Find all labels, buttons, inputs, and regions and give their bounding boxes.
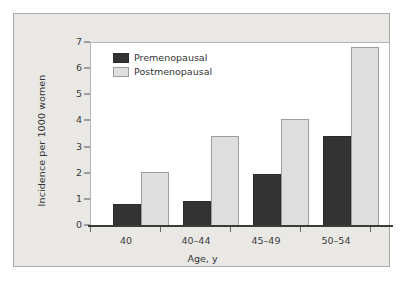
x-tick-label-40-44: 40–44 [182,235,211,246]
legend-item-postmenopausal: Postmenopausal [113,65,233,78]
bar-postmenopausal-50-54 [351,47,379,226]
plot-inner: Premenopausal Postmenopausal [91,43,389,226]
bar-postmenopausal-45-49 [281,119,309,226]
y-tick-label: 4 [66,115,82,125]
y-tick-label: 0 [66,220,82,230]
bar-premenopausal-40-44 [183,201,211,226]
chart-card: Incidence per 1000 women 7 6 5 4 3 2 1 0 [13,13,390,267]
legend-swatch-premenopausal-icon [113,53,129,63]
x-tick-label-50-54: 50–54 [322,235,351,246]
x-tick-mark [370,227,371,232]
x-axis-title: Age, y [14,253,391,264]
x-tick-mark [90,227,91,232]
bar-postmenopausal-40 [141,172,169,226]
x-tick-label-45-49: 45–49 [252,235,281,246]
y-tick-label: 6 [66,63,82,73]
x-tick-mark [300,227,301,232]
bar-premenopausal-50-54 [323,136,351,226]
legend: Premenopausal Postmenopausal [113,51,233,79]
y-axis-title: Incidence per 1000 women [36,66,47,216]
legend-label-premenopausal: Premenopausal [134,53,207,63]
bar-premenopausal-40 [113,204,141,226]
legend-swatch-postmenopausal-icon [113,67,129,77]
y-tick-label: 7 [66,37,82,47]
bar-premenopausal-45-49 [253,174,281,226]
x-tick-label-40: 40 [120,235,132,246]
x-axis-line [88,225,393,227]
y-tick-label: 5 [66,89,82,99]
y-tick-label: 3 [66,142,82,152]
legend-label-postmenopausal: Postmenopausal [134,67,212,77]
x-tick-mark [160,227,161,232]
y-tick-label: 2 [66,168,82,178]
bar-postmenopausal-40-44 [211,136,239,226]
figure-canvas: Incidence per 1000 women 7 6 5 4 3 2 1 0 [0,0,405,281]
y-tick-label: 1 [66,194,82,204]
y-axis-ticks: 7 6 5 4 3 2 1 0 [62,14,82,281]
x-tick-mark [230,227,231,232]
plot-area: Premenopausal Postmenopausal [90,42,390,227]
legend-item-premenopausal: Premenopausal [113,51,233,64]
